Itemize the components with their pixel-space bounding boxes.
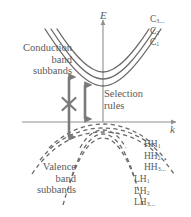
c2-index: 2	[156, 30, 159, 36]
valence-annotation-line-2: band	[0, 173, 76, 185]
hh1-name: HH	[144, 139, 158, 149]
valence-annotation-line-1: Valence	[0, 161, 76, 173]
subband-label-hh2: HH2	[144, 151, 166, 163]
valence-curve-hh1	[49, 124, 157, 148]
lh2-index: 2	[147, 190, 150, 196]
selection-annotation-line-1: Selection	[104, 88, 166, 100]
subband-label-c1: C1	[150, 37, 165, 49]
subband-label-lh3: LH3...	[134, 197, 155, 209]
subband-label-lh1: LH1	[134, 174, 155, 186]
conduction-annotation-line-2: band	[0, 54, 72, 66]
hh2-name: HH	[144, 151, 158, 161]
hh1-index: 1	[158, 143, 161, 149]
lh3-name: LH	[134, 197, 147, 207]
conduction-annotation-line-3: subbands	[0, 65, 72, 77]
lh1-name: LH	[134, 174, 147, 184]
subband-label-lh2: LH2	[134, 186, 155, 198]
valence-curve-lh2	[72, 134, 134, 176]
subband-label-c3: C3...	[150, 14, 165, 26]
hh2-index: 2	[158, 155, 161, 161]
valence-annotation-line-3: subbands	[0, 184, 76, 196]
valence-curve-lh1	[80, 130, 126, 148]
light-hole-subband-labels: LH1 LH2 LH3...	[134, 174, 155, 209]
subband-label-hh1: HH1	[144, 139, 166, 151]
lh1-index: 1	[147, 178, 150, 184]
lh2-name: LH	[134, 186, 147, 196]
hh3-ellipsis: ...	[161, 165, 167, 172]
selection-rules-annotation: Selection rules	[104, 88, 166, 111]
c3-ellipsis: ...	[159, 17, 165, 24]
valence-band-annotation: Valence band subbands	[0, 161, 76, 196]
energy-axis-label: E	[100, 9, 107, 21]
lh3-ellipsis: ...	[150, 200, 156, 207]
band-structure-figure: E k Conduction band subbands Valence ban…	[0, 0, 191, 217]
conduction-annotation-line-1: Conduction	[0, 42, 72, 54]
hh3-name: HH	[144, 162, 158, 172]
subband-label-c2: C2	[150, 26, 165, 38]
conduction-subband-labels: C3... C2 C1	[150, 14, 165, 49]
conduction-band-annotation: Conduction band subbands	[0, 42, 72, 77]
momentum-axis-label: k	[170, 123, 175, 135]
heavy-hole-subband-labels: HH1 HH2 HH3...	[144, 139, 166, 174]
subband-label-hh3: HH3...	[144, 162, 166, 174]
selection-annotation-line-2: rules	[104, 100, 166, 112]
c1-index: 1	[156, 41, 159, 47]
